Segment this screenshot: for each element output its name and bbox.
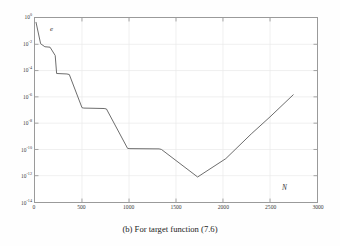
x-tick-label: 1500 [170,204,181,210]
y-tick-label: 10-8 [23,120,32,126]
y-tick-label: 10-4 [23,67,32,73]
error-curve [35,18,317,202]
y-tick-label: 10-14 [21,200,32,206]
y-tick-label: 10-12 [21,173,32,179]
y-tick-label: 10-10 [21,147,32,153]
x-tick-label: 1000 [123,204,134,210]
x-tick-label: 3000 [312,204,323,210]
chart-figure: 100 10-2 10-4 10-6 10-8 10-10 10-12 10-1… [0,0,340,216]
x-axis-name-label: N [282,183,287,192]
x-tick-label: 0 [33,204,36,210]
x-tick-label: 500 [77,204,85,210]
plot-area: e N [34,17,318,203]
y-axis-tick-labels: 100 10-2 10-4 10-6 10-8 10-10 10-12 10-1… [0,17,34,203]
y-tick-label: 100 [25,14,32,20]
figure-page: 100 10-2 10-4 10-6 10-8 10-10 10-12 10-1… [0,0,340,246]
x-axis-tick-labels: 0 500 1000 1500 2000 2500 3000 [34,204,318,216]
y-axis-name-label: e [50,25,53,33]
x-tick-label: 2500 [265,204,276,210]
x-tick-label: 2000 [218,204,229,210]
figure-caption: (b) For target function (7.6) [0,224,340,234]
y-tick-label: 10-6 [23,94,32,100]
y-tick-label: 10-2 [23,41,32,47]
